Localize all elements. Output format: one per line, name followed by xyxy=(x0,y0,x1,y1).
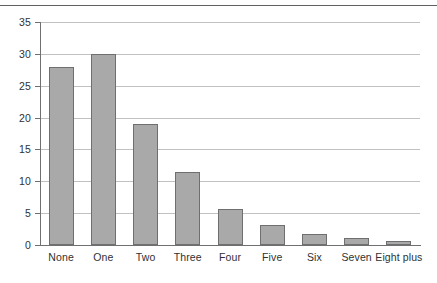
y-tick-mark-0 xyxy=(35,245,40,246)
bar-chart-figure: 05101520253035 NoneOneTwoThreeFourFiveSi… xyxy=(0,0,437,283)
y-tick-label-0: 0 xyxy=(5,240,31,251)
y-tick-label-10: 10 xyxy=(5,176,31,187)
bar-three xyxy=(175,172,200,245)
x-tick-label-eight-plus: Eight plus xyxy=(359,252,437,263)
y-tick-label-25: 25 xyxy=(5,81,31,92)
y-tick-label-30: 30 xyxy=(5,49,31,60)
y-tick-label-35: 35 xyxy=(5,17,31,28)
bars-layer xyxy=(40,22,420,245)
bar-two xyxy=(133,124,158,245)
y-tick-label-15: 15 xyxy=(5,144,31,155)
y-tick-label-5: 5 xyxy=(5,208,31,219)
x-axis-line xyxy=(40,245,421,246)
bar-five xyxy=(260,225,285,245)
bar-six xyxy=(302,234,327,245)
bar-four xyxy=(218,209,243,245)
bar-seven xyxy=(344,238,369,245)
y-tick-label-20: 20 xyxy=(5,113,31,124)
bar-eight-plus xyxy=(386,241,411,245)
bar-none xyxy=(49,67,74,245)
bar-one xyxy=(91,54,116,245)
